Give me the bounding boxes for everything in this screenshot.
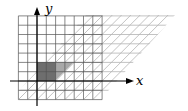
shear-diagram: x y bbox=[0, 0, 188, 111]
y-axis-label: y bbox=[44, 1, 53, 16]
sheared-grid bbox=[0, 0, 188, 111]
y-axis-arrow-icon bbox=[34, 7, 40, 15]
x-axis-label: x bbox=[136, 73, 144, 88]
x-axis-arrow-icon bbox=[126, 78, 134, 84]
